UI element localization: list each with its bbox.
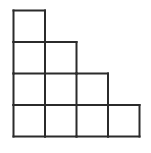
grid-cell-r1-c1 [45, 42, 77, 74]
staircase-diagram [0, 0, 151, 153]
grid-cell-r2-c1 [45, 74, 77, 106]
grid-cell-r2-c0 [14, 74, 46, 106]
grid-cell-r3-c0 [14, 105, 46, 137]
grid-cell-r3-c2 [77, 105, 109, 137]
grid-cell-r2-c2 [77, 74, 109, 106]
grid-cell-r1-c0 [14, 42, 46, 74]
grid-cell-r3-c3 [108, 105, 140, 137]
grid-cell-r0-c0 [14, 11, 46, 43]
figure-canvas [0, 0, 151, 153]
grid-cell-r3-c1 [45, 105, 77, 137]
